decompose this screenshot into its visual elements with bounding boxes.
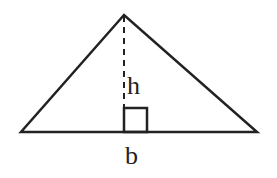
base-label: b: [125, 141, 138, 170]
triangle-diagram: h b: [0, 0, 277, 178]
right-angle-marker: [124, 108, 147, 132]
height-label: h: [127, 71, 140, 100]
